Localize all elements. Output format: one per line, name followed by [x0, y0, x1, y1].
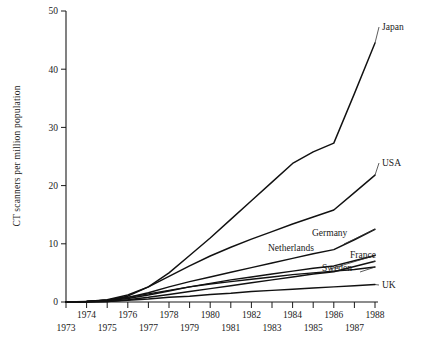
leader-line-germany [344, 229, 375, 244]
x-axis-ticks [66, 302, 375, 308]
series-label-uk: UK [382, 280, 396, 290]
y-tick-label-30: 30 [49, 123, 59, 133]
leader-line-japan [375, 27, 379, 43]
y-tick-label-0: 0 [53, 297, 58, 307]
x-axis-tick-labels-upper: 19741976197819801982198419861988 [77, 310, 385, 320]
x-tick-label-1980: 1980 [201, 310, 220, 320]
series-label-sweden: Sweden [322, 263, 352, 273]
x-tick-label-1988: 1988 [366, 310, 385, 320]
x-tick-label-1979: 1979 [180, 323, 199, 333]
leader-line-usa [375, 163, 379, 175]
x-tick-label-1987: 1987 [345, 323, 364, 333]
x-tick-label-1981: 1981 [221, 323, 240, 333]
series-labels: JapanUSAGermanyNetherlandsFranceSwedenUK [268, 22, 404, 290]
x-tick-label-1975: 1975 [98, 323, 117, 333]
chart-page: 01020304050 1974197619781980198219841986… [0, 0, 422, 346]
x-axis-tick-labels-lower: 19731975197719791981198319851987 [57, 323, 365, 333]
x-tick-label-1985: 1985 [304, 323, 323, 333]
series-label-japan: Japan [382, 22, 404, 32]
ct-scanner-line-chart: 01020304050 1974197619781980198219841986… [0, 0, 422, 346]
series-label-france: France [350, 250, 376, 260]
y-axis-title: CT scanners per million population [12, 85, 22, 226]
y-tick-label-40: 40 [49, 65, 59, 75]
x-tick-label-1984: 1984 [283, 310, 302, 320]
series-label-netherlands: Netherlands [268, 243, 314, 253]
x-tick-label-1977: 1977 [139, 323, 158, 333]
x-tick-label-1976: 1976 [118, 310, 137, 320]
series-leader-lines [330, 27, 379, 285]
x-tick-label-1974: 1974 [77, 310, 96, 320]
y-axis-tick-labels: 01020304050 [49, 6, 59, 307]
y-tick-label-10: 10 [49, 239, 59, 249]
x-tick-label-1973: 1973 [57, 323, 76, 333]
y-axis-ticks [61, 11, 66, 302]
y-tick-label-20: 20 [49, 181, 59, 191]
x-tick-label-1986: 1986 [324, 310, 343, 320]
axes [66, 11, 378, 302]
y-tick-label-50: 50 [49, 6, 59, 16]
series-label-usa: USA [382, 158, 401, 168]
x-tick-label-1982: 1982 [242, 310, 261, 320]
x-tick-label-1983: 1983 [263, 323, 282, 333]
x-tick-label-1978: 1978 [160, 310, 179, 320]
series-label-germany: Germany [312, 228, 348, 238]
